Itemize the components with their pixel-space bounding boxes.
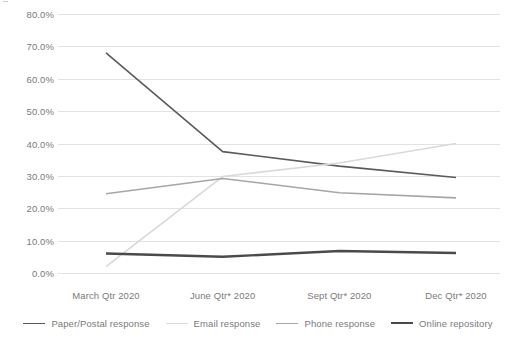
series-lines xyxy=(58,0,500,285)
series-line xyxy=(106,178,456,197)
y-axis-tick-label: 20.0% xyxy=(27,203,54,214)
y-axis-tick-label: 30.0% xyxy=(27,170,54,181)
x-axis-tick-label: June Qtr* 2020 xyxy=(190,290,255,301)
y-axis-tick-label: 60.0% xyxy=(27,73,54,84)
x-axis: March Qtr 2020June Qtr* 2020Sept Qtr* 20… xyxy=(58,286,500,308)
legend-label: Paper/Postal response xyxy=(51,318,149,329)
legend-label: Phone response xyxy=(304,318,375,329)
y-axis-tick-label: 80.0% xyxy=(27,9,54,20)
series-line xyxy=(106,251,456,257)
chart-legend: Paper/Postal responseEmail responsePhone… xyxy=(0,313,516,333)
x-axis-tick-label: March Qtr 2020 xyxy=(72,290,139,301)
legend-label: Online repository xyxy=(419,318,493,329)
y-axis-tick-label: 50.0% xyxy=(27,106,54,117)
legend-line-icon xyxy=(391,322,413,324)
line-chart: 0.0%10.0%20.0%30.0%40.0%50.0%60.0%70.0%8… xyxy=(0,0,516,340)
y-axis-tick-label: 0.0% xyxy=(32,268,54,279)
series-line xyxy=(106,53,456,178)
plot-area xyxy=(58,0,500,285)
legend-line-icon xyxy=(276,323,298,324)
x-axis-tick-label: Sept Qtr* 2020 xyxy=(307,290,371,301)
legend-item[interactable]: Phone response xyxy=(276,318,375,329)
legend-item[interactable]: Email response xyxy=(166,318,261,329)
legend-item[interactable]: Online repository xyxy=(391,318,493,329)
series-line xyxy=(106,144,456,267)
legend-line-icon xyxy=(166,323,188,324)
y-axis: 0.0%10.0%20.0%30.0%40.0%50.0%60.0%70.0%8… xyxy=(0,0,60,285)
x-axis-tick-label: Dec Qtr* 2020 xyxy=(425,290,487,301)
y-axis-tick-label: 70.0% xyxy=(27,41,54,52)
legend-label: Email response xyxy=(194,318,261,329)
y-axis-tick-label: 10.0% xyxy=(27,235,54,246)
legend-item[interactable]: Paper/Postal response xyxy=(23,318,149,329)
legend-line-icon xyxy=(23,323,45,324)
y-axis-tick-label: 40.0% xyxy=(27,138,54,149)
